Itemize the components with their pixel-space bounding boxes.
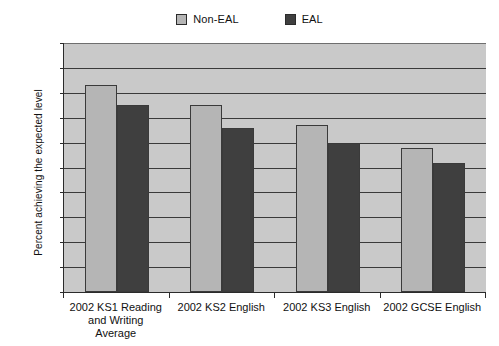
gridline-80 — [64, 93, 486, 94]
x-category-label-2: 2002 KS3 English — [274, 301, 380, 314]
y-tick-mark-90 — [60, 68, 64, 69]
legend-entry-non-eal: Non-EAL — [176, 14, 238, 25]
y-tick-mark-50 — [60, 168, 64, 169]
y-tick-mark-30 — [60, 217, 64, 218]
legend-entry-eal: EAL — [285, 14, 323, 25]
y-axis-title: Percent achieving the expected level — [33, 48, 44, 298]
bar-eal-0 — [117, 105, 149, 292]
bar-chart: Non-EAL EAL Percent achieving the expect… — [0, 0, 499, 346]
x-category-label-1: 2002 KS2 English — [169, 301, 275, 314]
x-category-label-0: 2002 KS1 Readingand WritingAverage — [63, 301, 169, 340]
bar-non-eal-0 — [85, 85, 117, 292]
legend-swatch-non-eal-icon — [176, 14, 187, 25]
x-category-label-3: 2002 GCSE English — [380, 301, 486, 314]
y-tick-mark-60 — [60, 143, 64, 144]
x-category-label-line: 2002 KS2 English — [169, 301, 275, 314]
x-category-label-line: 2002 GCSE English — [380, 301, 486, 314]
y-tick-mark-80 — [60, 93, 64, 94]
x-category-label-line: Average — [63, 327, 169, 340]
legend-label-eal: EAL — [302, 14, 323, 25]
x-tick-mark-3 — [380, 293, 381, 298]
y-tick-mark-70 — [60, 118, 64, 119]
gridline-90 — [64, 68, 486, 69]
x-tick-mark-4 — [485, 293, 486, 298]
bar-non-eal-1 — [190, 105, 222, 292]
legend-label-non-eal: Non-EAL — [193, 14, 238, 25]
chart-legend: Non-EAL EAL — [0, 14, 499, 25]
gridline-100 — [64, 43, 486, 44]
y-tick-mark-100 — [60, 43, 64, 44]
y-tick-mark-10 — [60, 267, 64, 268]
x-category-label-line: and Writing — [63, 314, 169, 327]
legend-swatch-eal-icon — [285, 14, 296, 25]
plot-area: 0102030405060708090100 — [63, 43, 486, 293]
x-category-label-line: 2002 KS3 English — [274, 301, 380, 314]
y-tick-mark-20 — [60, 242, 64, 243]
bar-eal-3 — [433, 163, 465, 292]
bar-eal-2 — [328, 143, 360, 292]
bar-non-eal-3 — [401, 148, 433, 292]
y-tick-mark-40 — [60, 192, 64, 193]
x-tick-mark-0 — [63, 293, 64, 298]
x-category-label-line: 2002 KS1 Reading — [63, 301, 169, 314]
bar-eal-1 — [222, 128, 254, 292]
bar-non-eal-2 — [296, 125, 328, 292]
x-tick-mark-2 — [274, 293, 275, 298]
x-tick-mark-1 — [169, 293, 170, 298]
